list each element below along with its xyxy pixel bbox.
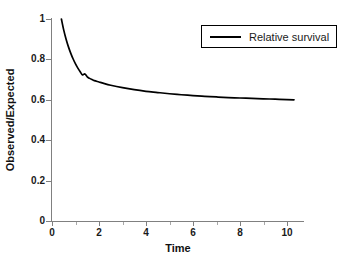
x-tick-mark [52,222,53,226]
y-tick-mark [46,59,51,60]
x-tick-label: 2 [96,228,102,238]
x-minor-tick-mark [76,222,77,225]
x-tick-mark [193,222,194,226]
x-tick-label: 6 [190,228,196,238]
x-minor-tick-mark [217,222,218,225]
x-tick-mark [240,222,241,226]
y-axis-title-text: Observed/Expected [4,69,16,172]
y-tick-mark [46,19,51,20]
y-tick-label: 0.8 [31,54,45,64]
x-tick-label: 10 [281,228,292,238]
x-minor-tick-mark [170,222,171,225]
series-relative-survival [52,19,302,221]
chart-figure: 00.20.40.60.81 0246810 Observed/Expected… [0,0,341,261]
x-tick-label: 8 [237,228,243,238]
y-tick-label: 0.4 [31,135,45,145]
x-tick-label: 0 [49,228,55,238]
x-minor-tick-mark [264,222,265,225]
y-tick-mark [46,221,51,222]
legend-item-label: Relative survival [249,31,329,43]
y-axis-title: Observed/Expected [2,50,18,190]
chart-legend: Relative survival [201,25,337,48]
y-tick-mark [46,181,51,182]
legend-line-swatch [210,36,241,38]
x-minor-tick-mark [123,222,124,225]
x-axis-line [51,221,304,222]
x-tick-mark [99,222,100,226]
x-axis-title: Time [52,242,304,254]
y-tick-label: 0 [39,216,45,226]
plot-area [52,19,302,221]
x-tick-mark [287,222,288,226]
y-tick-mark [46,100,51,101]
y-tick-mark [46,140,51,141]
y-tick-label: 1 [39,14,45,24]
y-tick-label: 0.2 [31,176,45,186]
x-tick-label: 4 [143,228,149,238]
x-tick-mark [146,222,147,226]
y-tick-label: 0.6 [31,95,45,105]
